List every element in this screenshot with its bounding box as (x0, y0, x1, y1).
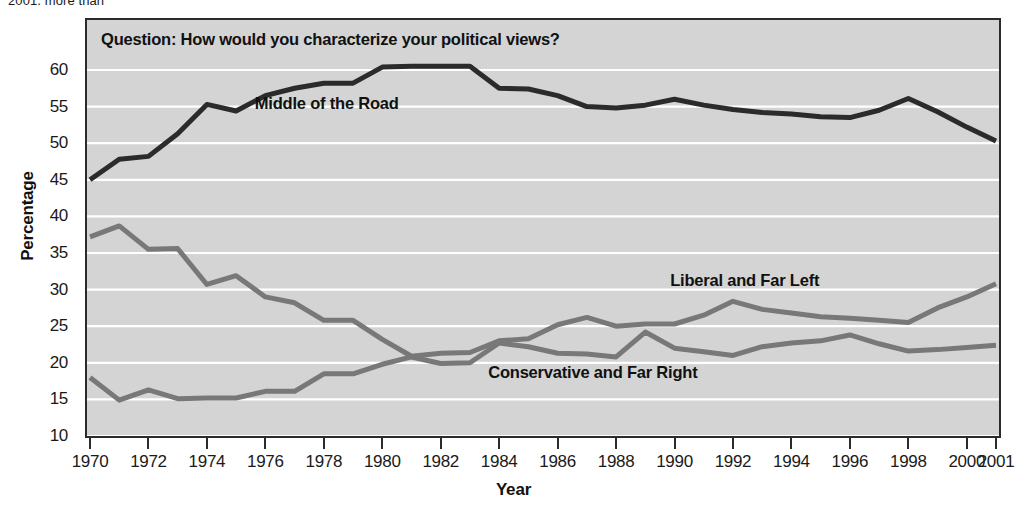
x-axis-tick-mark (907, 438, 909, 449)
series-label-1: Liberal and Far Left (670, 271, 819, 290)
series-line-0 (90, 66, 996, 179)
y-axis-tick-label: 60 (26, 60, 68, 80)
x-axis-tick-mark (732, 438, 734, 449)
x-axis-tick-mark (557, 438, 559, 449)
x-axis-tick-mark (440, 438, 442, 449)
y-axis-title: Percentage (18, 136, 38, 296)
x-axis-tick-mark (849, 438, 851, 449)
x-axis-tick-mark (615, 438, 617, 449)
y-axis-tick-label: 20 (26, 353, 68, 373)
x-axis-tick-label: 2001 (961, 452, 1027, 472)
x-axis-tick-mark (323, 438, 325, 449)
series-label-0: Middle of the Road (255, 94, 399, 113)
x-axis-tick-mark (966, 438, 968, 449)
x-axis-tick-mark (674, 438, 676, 449)
x-axis-title: Year (0, 480, 1027, 500)
x-axis-tick-mark (790, 438, 792, 449)
y-axis-tick-label: 10 (26, 426, 68, 446)
series-label-2: Conservative and Far Right (488, 363, 697, 382)
y-axis-tick-label: 15 (26, 389, 68, 409)
x-axis-tick-mark (264, 438, 266, 449)
x-axis-tick-mark (995, 438, 997, 449)
x-axis-tick-mark (147, 438, 149, 449)
x-axis-tick-mark (206, 438, 208, 449)
chart-question-title: Question: How would you characterize you… (101, 30, 560, 49)
x-axis-tick-mark (89, 438, 91, 449)
x-axis-tick-mark (381, 438, 383, 449)
y-axis-tick-label: 25 (26, 316, 68, 336)
political-views-line-chart: 2001, more than 6055504540353025201510 P… (0, 0, 1027, 514)
y-axis-tick-label: 55 (26, 97, 68, 117)
x-axis-tick-mark (498, 438, 500, 449)
